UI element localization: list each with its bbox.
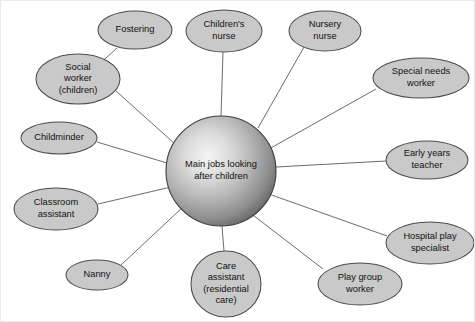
- spoke-hospital-play-specialist: [266, 193, 387, 236]
- node-fostering[interactable]: Fostering: [98, 11, 172, 49]
- node-childminder[interactable]: Childminder: [21, 122, 97, 154]
- node-label-hospital-play-specialist: Hospital playspecialist: [403, 232, 457, 254]
- spoke-early-years-teacher: [276, 161, 386, 167]
- spoke-childminder: [97, 142, 167, 163]
- node-nursery-nurse[interactable]: Nurserynurse: [289, 11, 361, 51]
- mind-map-canvas: Main jobs lookingafter children Fosterin…: [0, 0, 475, 322]
- node-classroom-assistant[interactable]: Classroomassistant: [14, 188, 98, 230]
- spoke-classroom-assistant: [98, 187, 171, 204]
- node-social-worker-children[interactable]: Socialworker(children): [36, 54, 120, 104]
- spoke-play-group-worker: [249, 212, 323, 269]
- node-special-needs-worker[interactable]: Special needsworker: [373, 58, 469, 98]
- node-nanny[interactable]: Nanny: [66, 260, 128, 290]
- spoke-nursery-nurse: [258, 47, 304, 128]
- node-label-classroom-assistant: Classroomassistant: [34, 198, 79, 220]
- spoke-childrens-nurse: [221, 52, 223, 116]
- node-play-group-worker[interactable]: Play groupworker: [318, 263, 402, 305]
- center-node-layer: Main jobs lookingafter children: [166, 116, 276, 226]
- node-care-assistant-residential[interactable]: Careassistant(residentialcare): [191, 251, 261, 317]
- spoke-social-worker-children: [116, 91, 175, 144]
- spoke-care-assistant-residential: [222, 226, 224, 251]
- node-hospital-play-specialist[interactable]: Hospital playspecialist: [386, 222, 474, 264]
- mind-map-diagram: Main jobs lookingafter children Fosterin…: [1, 1, 475, 322]
- node-childrens-nurse[interactable]: Children'snurse: [186, 10, 262, 52]
- node-early-years-teacher[interactable]: Early yearsteacher: [386, 141, 468, 179]
- node-label-childminder: Childminder: [34, 132, 84, 142]
- spoke-special-needs-worker: [269, 89, 376, 149]
- node-label-fostering: Fostering: [116, 24, 155, 34]
- node-label-nanny: Nanny: [84, 269, 111, 279]
- spoke-nanny: [121, 207, 183, 265]
